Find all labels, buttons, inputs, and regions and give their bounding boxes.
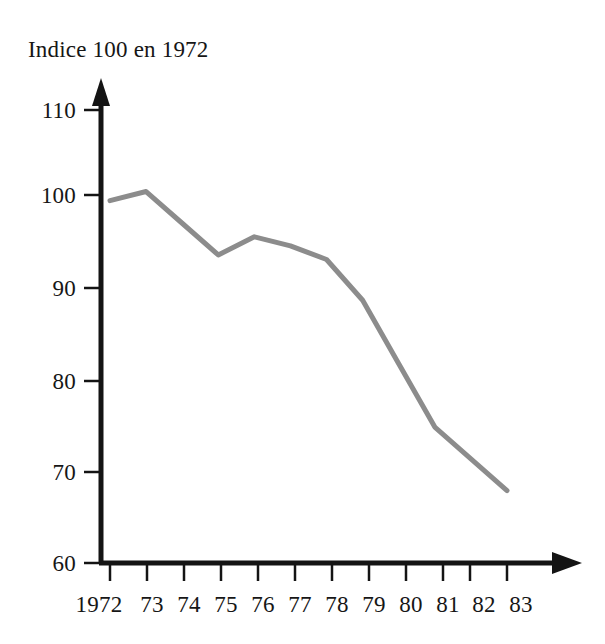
x-tick-label-76: 76 [251, 592, 274, 617]
y-axis-ticks [84, 110, 101, 563]
x-tick-label-73: 73 [140, 592, 163, 617]
x-tick-label-83: 83 [509, 592, 532, 617]
x-axis [99, 552, 582, 574]
y-tick-label-80: 80 [53, 369, 76, 394]
data-series-line [110, 192, 507, 491]
x-tick-label-81: 81 [436, 592, 459, 617]
x-tick-label-79: 79 [362, 592, 385, 617]
chart-container: Indice 100 en 1972 110 100 90 80 70 [0, 0, 605, 644]
x-axis-tick-labels: 1972 73 74 75 76 77 78 79 80 81 82 83 [76, 592, 533, 617]
x-tick-label-74: 74 [177, 592, 201, 617]
y-axis-arrowhead-icon [92, 78, 110, 106]
x-tick-label-1972: 1972 [76, 592, 123, 617]
y-axis [92, 78, 110, 563]
y-axis-tick-labels: 110 100 90 80 70 60 [41, 98, 76, 576]
x-axis-ticks [110, 563, 507, 581]
x-tick-label-82: 82 [472, 592, 495, 617]
x-tick-label-75: 75 [214, 592, 237, 617]
y-tick-label-70: 70 [53, 460, 76, 485]
y-tick-label-110: 110 [42, 98, 76, 123]
x-tick-label-77: 77 [288, 592, 311, 617]
line-chart-plot: 110 100 90 80 70 60 1972 73 74 [0, 0, 605, 644]
y-tick-label-90: 90 [53, 276, 76, 301]
y-tick-label-60: 60 [53, 551, 76, 576]
y-tick-label-100: 100 [41, 183, 76, 208]
x-tick-label-80: 80 [399, 592, 422, 617]
x-axis-arrowhead-icon [552, 552, 582, 574]
x-tick-label-78: 78 [325, 592, 348, 617]
